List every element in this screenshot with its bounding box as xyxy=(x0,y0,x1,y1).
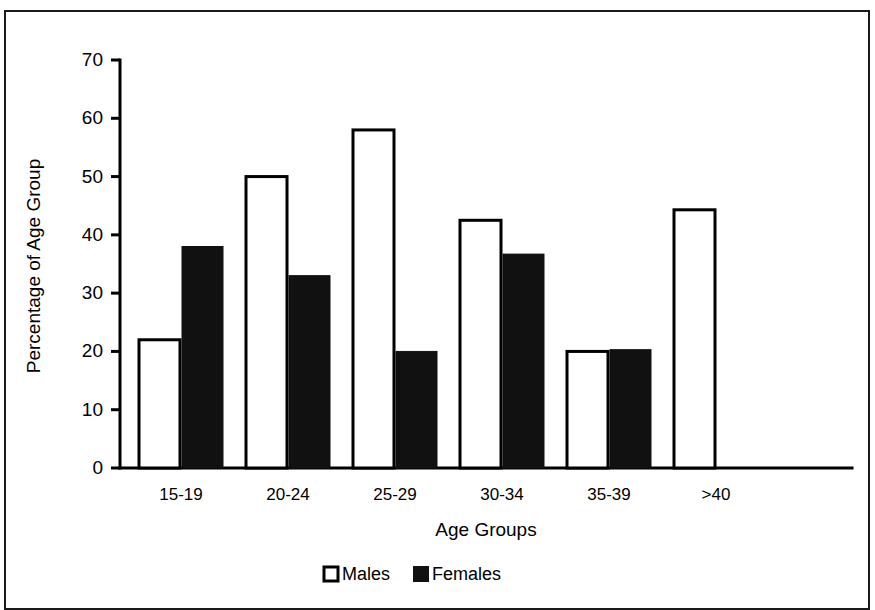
bar-males-30-34 xyxy=(460,220,501,468)
y-tick-label: 70 xyxy=(82,49,103,70)
x-axis-title: Age Groups xyxy=(435,519,536,540)
x-axis-tick-labels: 15-1920-2425-2930-3435-39>40 xyxy=(159,485,730,504)
x-tick-label: 15-19 xyxy=(159,485,202,504)
bar-females-25-29 xyxy=(396,351,437,468)
bar-females-35-39 xyxy=(610,350,651,468)
x-tick-label: 35-39 xyxy=(587,485,630,504)
bar-males-15-19 xyxy=(139,340,180,468)
x-tick-label: 25-29 xyxy=(373,485,416,504)
bar-chart: Percentage of Age Group 010203040506070 … xyxy=(6,12,872,604)
bar-males-25-29 xyxy=(353,130,394,468)
chart-legend: MalesFemales xyxy=(324,564,501,584)
bar-females-20-24 xyxy=(289,276,330,468)
y-axis-title: Percentage of Age Group xyxy=(23,159,44,373)
x-tick-label: 20-24 xyxy=(266,485,309,504)
bar-males->40 xyxy=(674,210,715,468)
bars-layer xyxy=(139,130,715,468)
y-tick-label: 40 xyxy=(82,224,103,245)
legend-swatch-males xyxy=(324,567,338,581)
legend-label-females: Females xyxy=(432,564,501,584)
bar-females-30-34 xyxy=(503,254,544,468)
y-tick-label: 30 xyxy=(82,282,103,303)
y-tick-label: 0 xyxy=(92,457,103,478)
bar-females-15-19 xyxy=(182,247,223,468)
x-tick-label: 30-34 xyxy=(480,485,523,504)
y-tick-label: 10 xyxy=(82,399,103,420)
bar-males-35-39 xyxy=(567,351,608,468)
y-axis-ticks: 010203040506070 xyxy=(82,49,120,478)
y-tick-label: 60 xyxy=(82,107,103,128)
bar-males-20-24 xyxy=(246,177,287,468)
y-tick-label: 20 xyxy=(82,340,103,361)
legend-label-males: Males xyxy=(342,564,390,584)
y-tick-label: 50 xyxy=(82,166,103,187)
figure-border: Percentage of Age Group 010203040506070 … xyxy=(4,10,870,610)
x-tick-label: >40 xyxy=(702,485,731,504)
legend-swatch-females xyxy=(414,567,428,581)
